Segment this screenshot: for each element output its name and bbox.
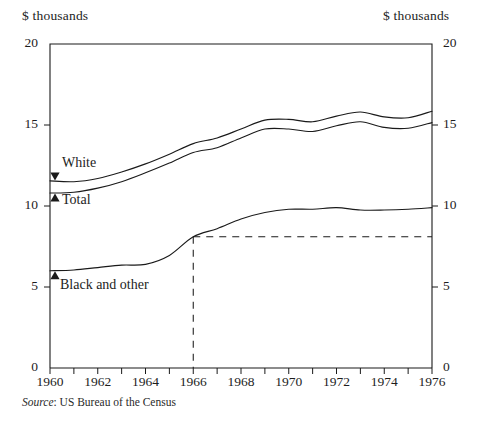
y-axis-tick-label-left: 0: [10, 359, 38, 375]
x-axis-tick-label: 1976: [406, 374, 458, 390]
series-line-white: [50, 111, 432, 182]
series-lines: [50, 111, 432, 271]
reference-lines: [193, 237, 432, 368]
x-axis-tick-label: 1966: [167, 374, 219, 390]
y-axis-tick-label-right: 0: [443, 359, 473, 375]
x-axis-tick-label: 1964: [120, 374, 172, 390]
series-pointer-markers: [50, 172, 59, 279]
axis-ticks: [44, 125, 438, 374]
x-axis-tick-label: 1960: [24, 374, 76, 390]
plot-canvas: [0, 0, 479, 428]
y-axis-tick-label-right: 5: [443, 278, 473, 294]
source-text: US Bureau of the Census: [60, 396, 176, 408]
x-axis-tick-label: 1974: [358, 374, 410, 390]
series-label-black-and-other: Black and other: [60, 277, 149, 293]
pointer-marker-total: [50, 194, 59, 202]
x-axis-tick-label: 1972: [311, 374, 363, 390]
series-label-white: White: [62, 155, 96, 171]
y-axis-tick-label-left: 5: [10, 278, 38, 294]
x-axis-tick-label: 1968: [215, 374, 267, 390]
plot-frame: [50, 44, 432, 368]
x-axis-tick-label: 1970: [263, 374, 315, 390]
source-note: Source: US Bureau of the Census: [22, 396, 176, 408]
y-axis-tick-label-right: 15: [443, 116, 473, 132]
source-separator: :: [54, 396, 57, 408]
y-axis-tick-label-right: 20: [443, 35, 473, 51]
y-axis-tick-label-left: 10: [10, 197, 38, 213]
source-prefix: Source: [22, 396, 54, 408]
y-axis-tick-label-left: 15: [10, 116, 38, 132]
x-axis-tick-label: 1962: [72, 374, 124, 390]
pointer-marker-white: [50, 172, 59, 180]
income-by-race-line-chart: $ thousands $ thousands 05101520 0510152…: [0, 0, 479, 428]
pointer-marker-black-and-other: [50, 271, 59, 279]
series-label-total: Total: [62, 192, 91, 208]
series-line-total: [50, 122, 432, 193]
series-line-black-and-other: [50, 208, 432, 271]
y-axis-tick-label-left: 20: [10, 35, 38, 51]
y-axis-tick-label-right: 10: [443, 197, 473, 213]
